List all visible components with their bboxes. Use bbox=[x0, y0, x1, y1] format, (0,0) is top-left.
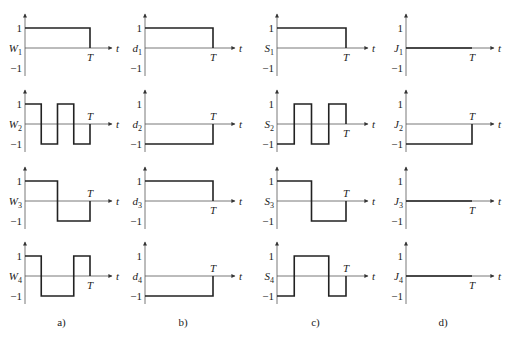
series-label: d4 bbox=[133, 270, 143, 285]
series-label: d1 bbox=[133, 42, 143, 57]
waveform bbox=[145, 28, 213, 48]
series-label: S3 bbox=[265, 195, 275, 210]
axis-label-t: t bbox=[372, 195, 376, 207]
tick-label-neg: −1 bbox=[391, 290, 403, 302]
waveform bbox=[145, 276, 213, 296]
series-label: W2 bbox=[9, 118, 22, 133]
axis-label-t: t bbox=[498, 195, 502, 207]
axis-label-t: t bbox=[239, 118, 243, 130]
axis-label-t: t bbox=[116, 42, 120, 54]
tick-label-pos: 1 bbox=[17, 175, 23, 187]
series-label: J3 bbox=[394, 195, 403, 210]
series-label: S1 bbox=[265, 42, 275, 57]
plot-j1: 1−1J1tT bbox=[391, 14, 502, 76]
period-label-T: T bbox=[210, 262, 217, 274]
axis-label-t: t bbox=[372, 42, 376, 54]
tick-label-neg: −1 bbox=[262, 62, 274, 74]
tick-label-neg: −1 bbox=[10, 290, 22, 302]
period-label-T: T bbox=[210, 110, 217, 122]
axis-label-t: t bbox=[498, 42, 502, 54]
period-label-T: T bbox=[343, 187, 350, 199]
series-label: d3 bbox=[133, 195, 143, 210]
waveform bbox=[406, 124, 472, 144]
period-label-T: T bbox=[87, 110, 94, 122]
plot-w2: 1−1W2tT bbox=[9, 90, 120, 152]
subfigure-caption: a) bbox=[57, 316, 66, 329]
tick-label-pos: 1 bbox=[398, 175, 404, 187]
period-label-T: T bbox=[343, 262, 350, 274]
series-label: J4 bbox=[394, 270, 403, 285]
tick-label-pos: 1 bbox=[398, 98, 404, 110]
column-d: 1−1d1tT1−1d2tT1−1d3tT1−1d4tT bbox=[130, 14, 243, 304]
tick-label-neg: −1 bbox=[262, 138, 274, 150]
axis-label-t: t bbox=[498, 270, 502, 282]
plot-w1: 1−1W1tT bbox=[9, 14, 120, 76]
axis-label-t: t bbox=[372, 270, 376, 282]
axis-label-t: t bbox=[498, 118, 502, 130]
tick-label-neg: −1 bbox=[262, 215, 274, 227]
plot-s1: 1−1S1tT bbox=[262, 14, 376, 76]
waveform bbox=[277, 28, 346, 48]
tick-label-neg: −1 bbox=[10, 62, 22, 74]
tick-label-pos: 1 bbox=[137, 250, 143, 262]
axis-label-t: t bbox=[239, 42, 243, 54]
axis-label-t: t bbox=[372, 118, 376, 130]
tick-label-pos: 1 bbox=[137, 22, 143, 34]
column-j: 1−1J1tT1−1J2tT1−1J3tT1−1J4tT bbox=[391, 14, 502, 304]
subfigure-caption: c) bbox=[311, 316, 320, 329]
tick-label-pos: 1 bbox=[137, 175, 143, 187]
period-label-T: T bbox=[87, 51, 94, 63]
column-w: 1−1W1tT1−1W2tT1−1W3tT1−1W4tT bbox=[9, 14, 120, 304]
period-label-T: T bbox=[210, 51, 217, 63]
tick-label-pos: 1 bbox=[269, 175, 275, 187]
period-label-T: T bbox=[210, 204, 217, 216]
waveform-figure: 1−1W1tT1−1W2tT1−1W3tT1−1W4tT1−1d1tT1−1d2… bbox=[0, 0, 506, 341]
period-label-T: T bbox=[87, 187, 94, 199]
tick-label-neg: −1 bbox=[130, 138, 142, 150]
plot-d2: 1−1d2tT bbox=[130, 90, 243, 152]
plot-d4: 1−1d4tT bbox=[130, 242, 243, 304]
tick-label-pos: 1 bbox=[398, 250, 404, 262]
subfigure-caption: d) bbox=[438, 316, 448, 329]
axis-label-t: t bbox=[239, 270, 243, 282]
series-label: W4 bbox=[9, 270, 22, 285]
tick-label-neg: −1 bbox=[391, 62, 403, 74]
plot-j3: 1−1J3tT bbox=[391, 167, 502, 229]
tick-label-neg: −1 bbox=[10, 138, 22, 150]
tick-label-neg: −1 bbox=[391, 215, 403, 227]
period-label-T: T bbox=[87, 279, 94, 291]
tick-label-neg: −1 bbox=[262, 290, 274, 302]
series-label: J2 bbox=[394, 118, 403, 133]
tick-label-pos: 1 bbox=[269, 98, 275, 110]
tick-label-pos: 1 bbox=[17, 22, 23, 34]
subfigure-caption: b) bbox=[178, 316, 188, 329]
plot-s4: 1−1S4tT bbox=[262, 242, 376, 304]
period-label-T: T bbox=[469, 204, 476, 216]
plot-d3: 1−1d3tT bbox=[130, 167, 243, 229]
series-label: S2 bbox=[265, 118, 275, 133]
plot-w4: 1−1W4tT bbox=[9, 242, 120, 304]
period-label-T: T bbox=[343, 51, 350, 63]
plot-w3: 1−1W3tT bbox=[9, 167, 120, 229]
plot-j4: 1−1J4tT bbox=[391, 242, 502, 304]
waveform bbox=[145, 124, 213, 144]
period-label-T: T bbox=[469, 279, 476, 291]
tick-label-pos: 1 bbox=[137, 98, 143, 110]
tick-label-pos: 1 bbox=[269, 250, 275, 262]
series-label: d2 bbox=[133, 118, 143, 133]
series-label: W1 bbox=[9, 42, 22, 57]
tick-label-pos: 1 bbox=[17, 98, 23, 110]
tick-label-neg: −1 bbox=[130, 290, 142, 302]
tick-label-neg: −1 bbox=[130, 215, 142, 227]
axis-label-t: t bbox=[116, 270, 120, 282]
waveform bbox=[25, 28, 90, 48]
plot-s2: 1−1S2tT bbox=[262, 90, 376, 152]
axis-label-t: t bbox=[116, 195, 120, 207]
axis-label-t: t bbox=[116, 118, 120, 130]
tick-label-neg: −1 bbox=[130, 62, 142, 74]
period-label-T: T bbox=[469, 110, 476, 122]
tick-label-neg: −1 bbox=[391, 138, 403, 150]
tick-label-pos: 1 bbox=[269, 22, 275, 34]
period-label-T: T bbox=[469, 51, 476, 63]
axis-label-t: t bbox=[239, 195, 243, 207]
